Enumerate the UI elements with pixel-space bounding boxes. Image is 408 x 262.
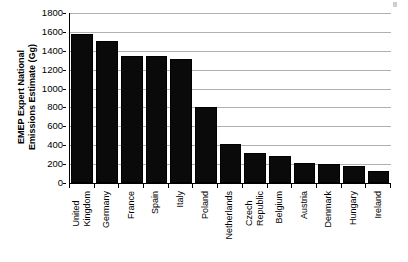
bar-slot [243, 13, 268, 183]
bar-slot [193, 13, 218, 183]
x-axis-label-line1: Germany [101, 191, 111, 228]
bar[interactable] [170, 59, 192, 183]
bar-slot [119, 13, 144, 183]
y-axis-tick-mark [63, 164, 66, 165]
bar[interactable] [318, 164, 340, 183]
bar-slot [70, 13, 95, 183]
y-axis-tick-label: 1800 [42, 8, 63, 18]
x-axis-label-slot: Netherlands [217, 189, 242, 259]
x-axis-label-line1: Spain [150, 191, 160, 214]
x-axis-tick-mark [341, 184, 342, 188]
x-axis-label-slot: Ireland [365, 189, 390, 259]
x-axis-label-line1: France [125, 191, 135, 219]
bar-slot [169, 13, 194, 183]
y-axis-tick-mark [63, 13, 66, 14]
bar[interactable] [195, 107, 217, 183]
x-axis-label-slot: UnitedKingdom [69, 189, 94, 259]
x-axis-category-label: Hungary [348, 191, 359, 225]
bar[interactable] [294, 163, 316, 183]
x-axis-label-slot: Italy [168, 189, 193, 259]
x-axis-label-line1: Italy [175, 191, 185, 208]
x-axis-label-slot: CzechRepublic [242, 189, 267, 259]
bar-slot [342, 13, 367, 183]
y-axis-title-text: EMEP Expert National Emissions Estimate … [16, 44, 38, 150]
x-axis-label-slot: Hungary [341, 189, 366, 259]
x-axis-tick-mark [217, 184, 218, 188]
bar-slot [268, 13, 293, 183]
x-axis-label-slot: Denmark [316, 189, 341, 259]
y-axis-tick-mark [63, 126, 66, 127]
x-axis-tick-mark [168, 184, 169, 188]
bar[interactable] [343, 166, 365, 183]
y-axis-tick-mark [63, 70, 66, 71]
x-axis-label-line2: Kingdom [81, 191, 92, 227]
x-axis-category-label: UnitedKingdom [71, 191, 92, 227]
bar-chart-figure: EMEP Expert National Emissions Estimate … [0, 0, 408, 262]
bar-slot [366, 13, 391, 183]
bar-slot [317, 13, 342, 183]
x-axis-tick-mark [118, 184, 119, 188]
x-axis-category-label: Denmark [323, 191, 334, 228]
x-axis-tick-mark [291, 184, 292, 188]
x-axis-category-label: Netherlands [224, 191, 235, 240]
x-axis-label-line1: Hungary [348, 191, 358, 225]
x-axis-label-slot: France [118, 189, 143, 259]
bar-slot [218, 13, 243, 183]
y-axis-tick-mark [63, 145, 66, 146]
x-axis-category-label: France [125, 191, 136, 219]
x-axis-tick-mark [365, 184, 366, 188]
x-axis-label-line1: Netherlands [224, 191, 234, 240]
bar-slot [144, 13, 169, 183]
x-axis-label-line1: Czech [244, 201, 254, 227]
y-axis-tick-label: 1000 [42, 84, 63, 94]
plot-area [69, 13, 391, 184]
x-axis-tick-marks [69, 184, 391, 188]
x-axis-category-label: Spain [150, 191, 161, 214]
bar[interactable] [146, 56, 168, 183]
x-axis-category-label: Germany [101, 191, 112, 228]
x-axis-label-line1: Austria [298, 191, 308, 219]
scan-artifact [393, 2, 397, 7]
x-axis-category-label: Ireland [372, 191, 383, 219]
y-axis-tick-label: 1600 [42, 27, 63, 37]
y-axis-tick-label: 600 [47, 121, 63, 131]
y-axis-tick-mark [63, 183, 66, 184]
x-axis-label-line1: Denmark [323, 191, 333, 228]
x-axis-tick-mark [267, 184, 268, 188]
x-axis-label-slot: Spain [143, 189, 168, 259]
x-axis-label-line1: Belgium [274, 191, 284, 224]
bar[interactable] [368, 171, 390, 183]
y-axis-tick-mark [63, 107, 66, 108]
bar[interactable] [220, 144, 242, 183]
x-axis-label-line1: Poland [200, 191, 210, 219]
x-axis-tick-mark [242, 184, 243, 188]
bar-series [70, 13, 391, 183]
bar[interactable] [244, 153, 266, 183]
y-axis-tick-label: 1200 [42, 65, 63, 75]
bar[interactable] [121, 56, 143, 183]
x-axis-category-label: CzechRepublic [244, 191, 265, 226]
x-axis-label-line2: Republic [254, 191, 265, 226]
bar[interactable] [71, 34, 93, 183]
x-axis-category-label: Poland [200, 191, 211, 219]
bar[interactable] [96, 41, 118, 183]
x-axis-category-labels: UnitedKingdomGermanyFranceSpainItalyPola… [69, 189, 390, 259]
x-axis-tick-mark [94, 184, 95, 188]
x-axis-category-label: Austria [298, 191, 309, 219]
y-axis-tick-label: 400 [47, 140, 63, 150]
x-axis-tick-mark [143, 184, 144, 188]
y-axis-tick-label: 1400 [42, 46, 63, 56]
y-axis-tick-mark [63, 89, 66, 90]
x-axis-label-line1: United [71, 201, 81, 227]
x-axis-label-line1: Ireland [372, 191, 382, 219]
x-axis-category-label: Italy [175, 191, 186, 208]
y-axis-tick-mark [63, 51, 66, 52]
y-axis-tick-label: 800 [47, 102, 63, 112]
y-axis-tick-mark [63, 32, 66, 33]
x-axis-tick-mark [192, 184, 193, 188]
x-axis-label-slot: Belgium [267, 189, 292, 259]
bar-slot [95, 13, 120, 183]
x-axis-label-slot: Germany [94, 189, 119, 259]
bar[interactable] [269, 156, 291, 183]
x-axis-category-label: Belgium [274, 191, 285, 224]
